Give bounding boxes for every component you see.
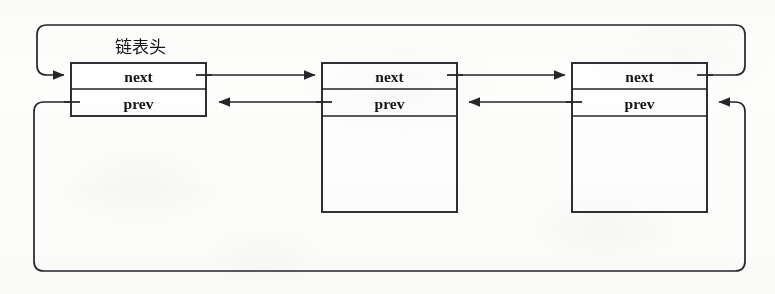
node-third-next-label: next [625, 68, 654, 85]
diagram-canvas: next prev 链表头 next prev next prev [0, 0, 775, 294]
head-label: 链表头 [115, 37, 166, 57]
linked-list-diagram: next prev 链表头 next prev next prev [0, 0, 775, 294]
node-third[interactable]: next prev [572, 63, 707, 212]
node-head-next-label: next [124, 68, 153, 85]
node-second-body [322, 63, 457, 212]
node-head[interactable]: next prev [71, 63, 206, 116]
node-second[interactable]: next prev [322, 63, 457, 212]
node-third-body [572, 63, 707, 212]
node-second-prev-label: prev [375, 95, 405, 112]
node-second-next-label: next [375, 68, 404, 85]
node-head-prev-label: prev [124, 95, 154, 112]
node-third-prev-label: prev [625, 95, 655, 112]
